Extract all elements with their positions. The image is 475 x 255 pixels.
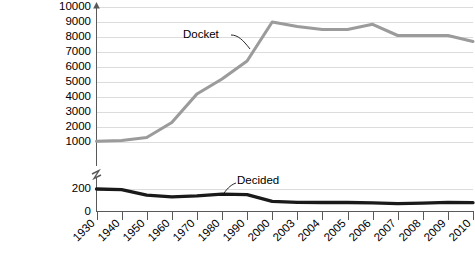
chart-screenshot: 1000090008000700060005000400030002000100… <box>0 0 475 255</box>
svg-text:5000: 5000 <box>65 75 91 87</box>
svg-text:1950: 1950 <box>120 217 147 244</box>
series-annotation-docket: Docket <box>183 28 220 40</box>
svg-text:2008: 2008 <box>396 217 423 244</box>
svg-text:2010: 2010 <box>446 217 473 244</box>
svg-text:2007: 2007 <box>371 217 398 244</box>
svg-text:6000: 6000 <box>65 60 91 72</box>
svg-text:1980: 1980 <box>195 217 222 244</box>
svg-text:1000: 1000 <box>65 135 91 147</box>
line-chart: 1000090008000700060005000400030002000100… <box>0 0 475 255</box>
svg-text:10000: 10000 <box>59 0 91 12</box>
axis-break-icon <box>92 171 101 179</box>
svg-text:2006: 2006 <box>346 217 373 244</box>
series-line-docket <box>97 22 474 141</box>
svg-text:1990: 1990 <box>220 217 247 244</box>
svg-text:2003: 2003 <box>270 217 297 244</box>
svg-text:1960: 1960 <box>145 217 172 244</box>
chart-canvas: 1000090008000700060005000400030002000100… <box>0 0 475 255</box>
svg-text:2009: 2009 <box>421 217 448 244</box>
svg-text:2005: 2005 <box>321 217 348 244</box>
svg-text:0: 0 <box>85 205 91 217</box>
svg-text:2004: 2004 <box>295 217 322 244</box>
y-axis-labels-lower: 2000 <box>72 182 91 217</box>
svg-text:2000: 2000 <box>65 120 91 132</box>
svg-text:9000: 9000 <box>65 15 91 27</box>
y-axis-arrowhead <box>93 2 100 9</box>
y-axis-labels-upper: 1000090008000700060005000400030002000100… <box>59 0 91 147</box>
x-axis-labels: 1930194019501960197019801990200020032004… <box>70 217 473 244</box>
svg-text:8000: 8000 <box>65 30 91 42</box>
svg-text:3000: 3000 <box>65 105 91 117</box>
svg-text:7000: 7000 <box>65 45 91 57</box>
svg-text:1940: 1940 <box>95 217 122 244</box>
series-annotation-decided: Decided <box>237 174 279 186</box>
svg-text:2000: 2000 <box>245 217 272 244</box>
svg-text:4000: 4000 <box>65 90 91 102</box>
series-line-decided <box>97 189 474 204</box>
svg-text:200: 200 <box>72 182 91 194</box>
svg-text:1970: 1970 <box>170 217 197 244</box>
svg-text:1930: 1930 <box>70 217 97 244</box>
